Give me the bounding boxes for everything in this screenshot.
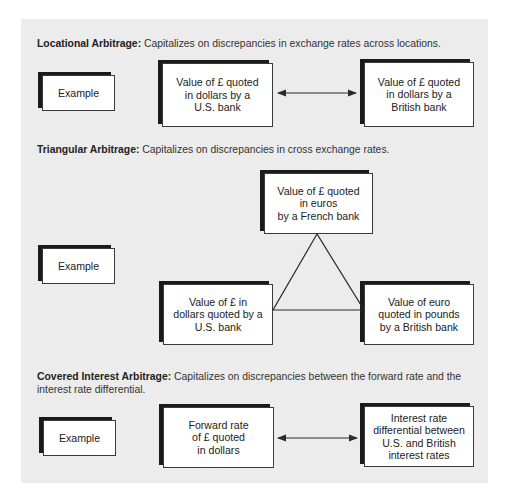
triangle-connector-icon (273, 234, 364, 310)
connector-lines (0, 0, 512, 500)
